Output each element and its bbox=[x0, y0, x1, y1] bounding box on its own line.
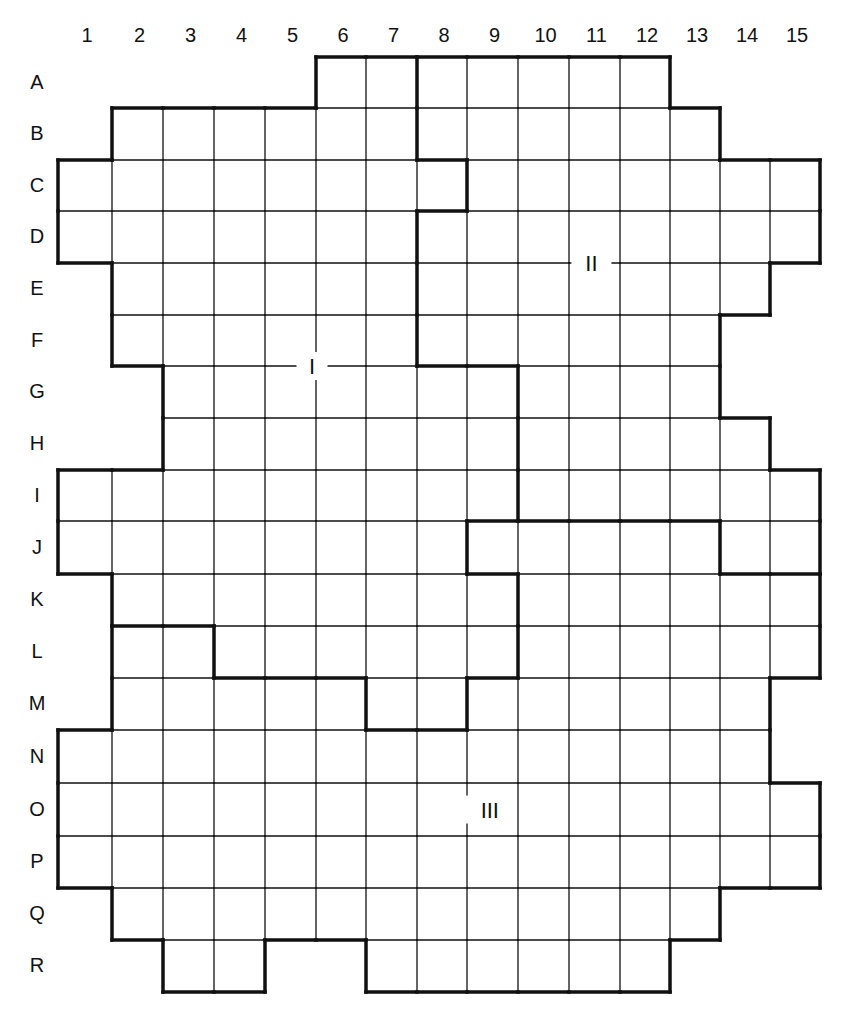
grid-cell-O1 bbox=[58, 783, 112, 836]
grid-cell-G11 bbox=[569, 366, 620, 418]
grid-cell-A12 bbox=[620, 57, 670, 108]
grid-cell-G9 bbox=[467, 366, 518, 418]
grid-cell-D7 bbox=[366, 211, 417, 263]
grid-cell-K2 bbox=[112, 574, 163, 626]
grid-cell-H12 bbox=[620, 418, 670, 470]
grid-cell-C8 bbox=[417, 160, 467, 211]
grid-cell-D15 bbox=[770, 211, 820, 263]
grid-cell-Q4 bbox=[214, 888, 265, 940]
grid-cell-H9 bbox=[467, 418, 518, 470]
grid-cell-D2 bbox=[112, 211, 163, 263]
grid-cell-B12 bbox=[620, 108, 670, 160]
grid-cell-K6 bbox=[316, 574, 366, 626]
grid-cell-B3 bbox=[163, 108, 214, 160]
grid-cell-M10 bbox=[518, 678, 569, 730]
grid-cell-L14 bbox=[720, 626, 770, 678]
grid-cell-E7 bbox=[366, 263, 417, 315]
grid-cell-K9 bbox=[467, 574, 518, 626]
grid-cell-N3 bbox=[163, 730, 214, 783]
grid-cell-A9 bbox=[467, 57, 518, 108]
grid-cell-C5 bbox=[265, 160, 316, 211]
grid-cell-E14 bbox=[720, 263, 770, 315]
region-label-II: II bbox=[585, 251, 597, 276]
grid-cell-F9 bbox=[467, 315, 518, 366]
grid-cell-I5 bbox=[265, 470, 316, 521]
grid-cell-L6 bbox=[316, 626, 366, 678]
grid-cell-N1 bbox=[58, 730, 112, 783]
grid-cell-G13 bbox=[670, 366, 720, 418]
grid-cell-O15 bbox=[770, 783, 820, 836]
grid-cell-E5 bbox=[265, 263, 316, 315]
grid-cell-M12 bbox=[620, 678, 670, 730]
grid-cell-E2 bbox=[112, 263, 163, 315]
grid-cell-P2 bbox=[112, 836, 163, 888]
grid-cell-J8 bbox=[417, 521, 467, 574]
grid-cell-L7 bbox=[366, 626, 417, 678]
grid-cell-D13 bbox=[670, 211, 720, 263]
grid-cell-F8 bbox=[417, 315, 467, 366]
grid-cell-B9 bbox=[467, 108, 518, 160]
grid-cell-J13 bbox=[670, 521, 720, 574]
grid-cell-Q12 bbox=[620, 888, 670, 940]
grid-cell-I1 bbox=[58, 470, 112, 521]
grid-cell-I12 bbox=[620, 470, 670, 521]
grid-cell-O2 bbox=[112, 783, 163, 836]
grid-cell-O4 bbox=[214, 783, 265, 836]
grid-cell-G4 bbox=[214, 366, 265, 418]
region-label-I: I bbox=[309, 354, 315, 379]
grid-cell-D8 bbox=[417, 211, 467, 263]
grid-cell-F11 bbox=[569, 315, 620, 366]
grid-cell-G3 bbox=[163, 366, 214, 418]
grid-cell-Q6 bbox=[316, 888, 366, 940]
grid-cell-P13 bbox=[670, 836, 720, 888]
grid-cell-G10 bbox=[518, 366, 569, 418]
grid-cell-J15 bbox=[770, 521, 820, 574]
grid-cell-A6 bbox=[316, 57, 366, 108]
grid-cell-L4 bbox=[214, 626, 265, 678]
grid-cell-R10 bbox=[518, 940, 569, 992]
grid-cell-N10 bbox=[518, 730, 569, 783]
grid-cell-H6 bbox=[316, 418, 366, 470]
grid-cell-R11 bbox=[569, 940, 620, 992]
grid-cell-E4 bbox=[214, 263, 265, 315]
grid-cell-E6 bbox=[316, 263, 366, 315]
grid-cell-L13 bbox=[670, 626, 720, 678]
grid-cell-L8 bbox=[417, 626, 467, 678]
grid-cell-D9 bbox=[467, 211, 518, 263]
grid-cell-I2 bbox=[112, 470, 163, 521]
grid-canvas: IIIIII bbox=[0, 0, 846, 1014]
grid-cell-B4 bbox=[214, 108, 265, 160]
grid-cell-M13 bbox=[670, 678, 720, 730]
grid-cell-K15 bbox=[770, 574, 820, 626]
grid-cell-F2 bbox=[112, 315, 163, 366]
grid-cell-R8 bbox=[417, 940, 467, 992]
grid-cell-M9 bbox=[467, 678, 518, 730]
grid-cell-O11 bbox=[569, 783, 620, 836]
grid-cell-C13 bbox=[670, 160, 720, 211]
grid-cell-N6 bbox=[316, 730, 366, 783]
grid-cell-N14 bbox=[720, 730, 770, 783]
grid-cell-N7 bbox=[366, 730, 417, 783]
grid-cell-A11 bbox=[569, 57, 620, 108]
grid-cell-O13 bbox=[670, 783, 720, 836]
grid-cell-P12 bbox=[620, 836, 670, 888]
grid-cell-H10 bbox=[518, 418, 569, 470]
grid-cell-L11 bbox=[569, 626, 620, 678]
grid-cell-J12 bbox=[620, 521, 670, 574]
grid-cell-A10 bbox=[518, 57, 569, 108]
grid-cell-B8 bbox=[417, 108, 467, 160]
grid-cell-L10 bbox=[518, 626, 569, 678]
grid-cell-O6 bbox=[316, 783, 366, 836]
grid-cell-K13 bbox=[670, 574, 720, 626]
grid-cell-E13 bbox=[670, 263, 720, 315]
grid-cell-O3 bbox=[163, 783, 214, 836]
grid-cell-H5 bbox=[265, 418, 316, 470]
grid-cell-M14 bbox=[720, 678, 770, 730]
grid-cell-C1 bbox=[58, 160, 112, 211]
grid-cell-B10 bbox=[518, 108, 569, 160]
grid-cell-Q11 bbox=[569, 888, 620, 940]
grid-cell-O12 bbox=[620, 783, 670, 836]
grid-cell-B6 bbox=[316, 108, 366, 160]
grid-cell-E9 bbox=[467, 263, 518, 315]
grid-cell-R3 bbox=[163, 940, 214, 992]
